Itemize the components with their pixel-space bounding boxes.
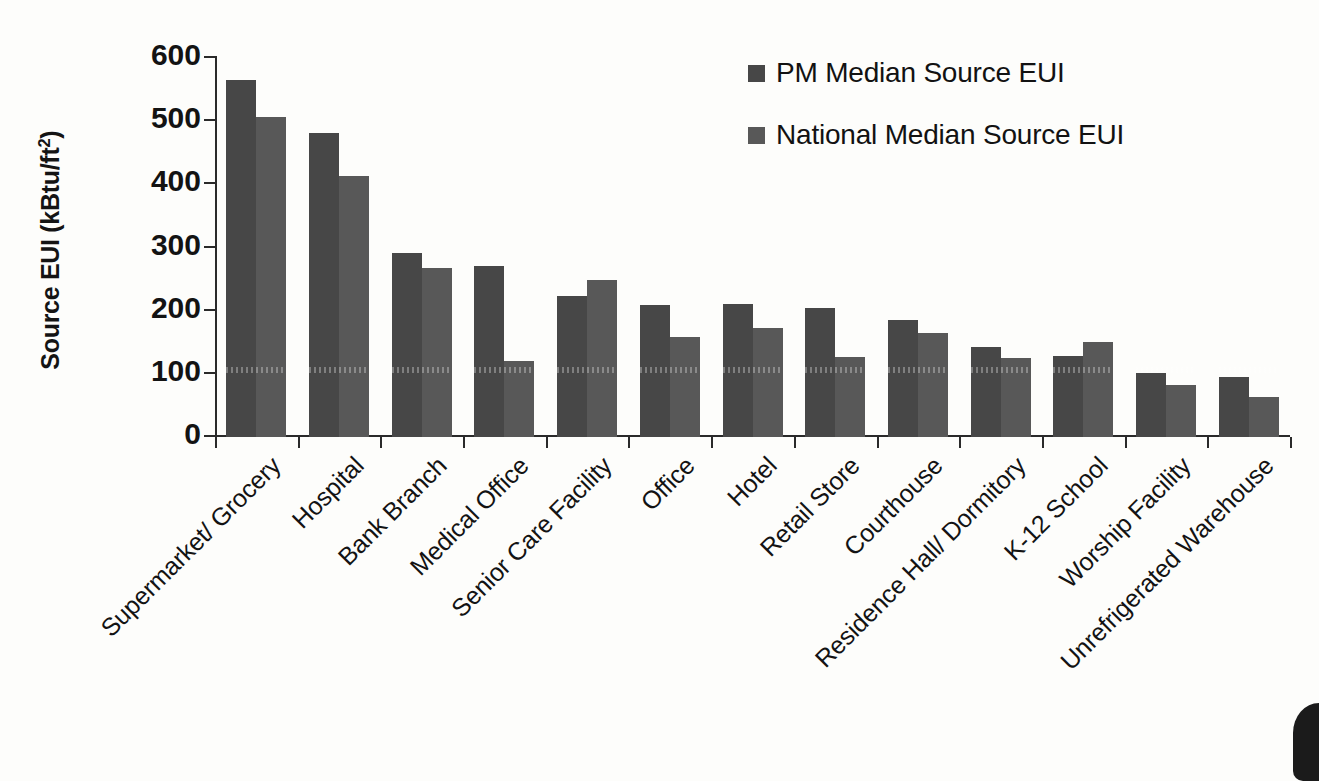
x-tick-12 [1290,437,1292,448]
x-tick-6 [794,437,796,448]
bar-pm-3 [474,266,504,437]
bar-pm-0 [226,80,256,437]
bar-national-0 [256,117,286,437]
legend-label-national: National Median Source EUI [776,119,1124,151]
y-tick-label-500: 500 [77,103,201,133]
x-tick-4 [628,437,630,448]
x-tick-3 [546,437,548,448]
bar-national-6 [753,328,783,437]
y-tick-label-0: 0 [77,419,201,449]
bar-pm-11 [1136,373,1166,437]
legend: PM Median Source EUI National Median Sou… [748,57,1124,181]
x-tick-origin [215,437,217,448]
bar-national-3 [504,361,534,437]
bar-pm-8 [888,320,918,437]
y-tick-label-200: 200 [77,293,201,323]
bar-pm-1 [309,133,339,437]
y-tick-label-600: 600 [77,40,201,70]
x-tick-1 [380,437,382,448]
bar-chart: Source EUI (kBtu/ft2) 010020030040050060… [0,0,1319,781]
bar-national-11 [1166,385,1196,437]
x-tick-10 [1125,437,1127,448]
legend-swatch-pm-icon [748,65,765,82]
x-tick-8 [959,437,961,448]
y-tick-600 [204,56,216,58]
bar-pm-6 [723,304,753,437]
y-tick-500 [204,119,216,121]
bar-national-1 [339,176,369,438]
y-tick-200 [204,309,216,311]
bar-pm-7 [805,308,835,437]
x-tick-2 [463,437,465,448]
y-tick-100 [204,372,216,374]
bar-pm-4 [557,296,587,437]
bar-national-8 [918,333,948,437]
y-axis-title-text: Source EUI (kBtu/ft [36,148,64,370]
x-tick-7 [877,437,879,448]
bar-national-10 [1083,342,1113,437]
legend-swatch-national-icon [748,127,765,144]
y-tick-400 [204,182,216,184]
y-axis-title-close: ) [36,131,64,139]
y-axis-title: Source EUI (kBtu/ft2) [35,50,65,450]
x-tick-9 [1042,437,1044,448]
bar-pm-9 [971,347,1001,437]
y-tick-label-400: 400 [77,166,201,196]
bar-pm-10 [1053,356,1083,437]
y-tick-label-300: 300 [77,230,201,260]
bar-pm-12 [1219,377,1249,437]
x-tick-0 [298,437,300,448]
bar-national-7 [835,357,865,437]
legend-item-pm: PM Median Source EUI [748,57,1124,89]
bar-national-12 [1249,397,1279,437]
bar-pm-2 [392,253,422,437]
y-tick-label-100: 100 [77,356,201,386]
y-tick-300 [204,246,216,248]
legend-label-pm: PM Median Source EUI [776,57,1065,89]
scan-artifact [1293,703,1319,781]
x-tick-5 [711,437,713,448]
x-tick-11 [1207,437,1209,448]
bar-national-9 [1001,358,1031,437]
bar-national-5 [670,337,700,437]
legend-item-national: National Median Source EUI [748,119,1124,151]
bar-national-4 [587,280,617,437]
y-axis-title-superscript: 2 [35,139,53,148]
bar-national-2 [422,268,452,437]
bar-pm-5 [640,305,670,437]
